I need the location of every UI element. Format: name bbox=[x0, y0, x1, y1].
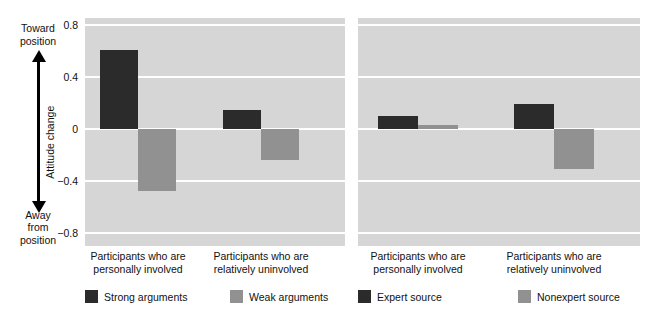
x-axis-group-labels-left: Participants who are personally involved… bbox=[85, 250, 345, 278]
legend-left: Strong argumentsWeak arguments bbox=[85, 290, 345, 306]
bar bbox=[138, 129, 176, 191]
legend-swatch bbox=[85, 290, 98, 303]
legend-item: Weak arguments bbox=[230, 290, 328, 303]
x-axis-group-labels-right: Participants who are personally involved… bbox=[358, 250, 640, 278]
figure-bar-chart-attitude-change: Toward position Attitude change Away fro… bbox=[0, 0, 649, 329]
legend-label: Strong arguments bbox=[104, 291, 187, 303]
legend-item: Expert source bbox=[358, 290, 442, 303]
gridline bbox=[358, 24, 640, 26]
caption-ghost bbox=[2, 318, 222, 328]
x-axis-group-label: Participants who are personally involved bbox=[353, 250, 483, 275]
legend-label: Expert source bbox=[377, 291, 442, 303]
gridline bbox=[85, 180, 345, 182]
y-tick-label: 0.4 bbox=[63, 71, 78, 83]
y-tick-label: 0.8 bbox=[63, 19, 78, 31]
legend-right: Expert sourceNonexpert source bbox=[358, 290, 640, 306]
legend-item: Strong arguments bbox=[85, 290, 187, 303]
legend-swatch bbox=[518, 290, 531, 303]
gridline bbox=[358, 76, 640, 78]
legend-swatch bbox=[358, 290, 371, 303]
y-axis-tick-labels: 0.80.40−0.4−0.8 bbox=[50, 0, 82, 260]
bar bbox=[223, 110, 261, 130]
plot-panel-right bbox=[358, 18, 640, 246]
bar bbox=[514, 104, 554, 129]
bar bbox=[554, 129, 594, 169]
y-tick-label: 0 bbox=[72, 123, 78, 135]
plot-panel-left bbox=[85, 18, 345, 246]
gridline bbox=[85, 24, 345, 26]
legend-item: Nonexpert source bbox=[518, 290, 620, 303]
bar bbox=[418, 125, 458, 129]
x-axis-group-label: Participants who are personally involved bbox=[73, 250, 203, 275]
gridline bbox=[85, 232, 345, 234]
y-tick-label: −0.4 bbox=[57, 175, 78, 187]
legend-swatch bbox=[230, 290, 243, 303]
x-axis-group-label: Participants who are relatively uninvolv… bbox=[196, 250, 326, 275]
legend-label: Nonexpert source bbox=[537, 291, 620, 303]
legend-label: Weak arguments bbox=[249, 291, 328, 303]
gridline bbox=[358, 232, 640, 234]
x-axis-group-label: Participants who are relatively uninvolv… bbox=[489, 250, 619, 275]
y-tick-label: −0.8 bbox=[57, 227, 78, 239]
gridline bbox=[358, 180, 640, 182]
bar bbox=[261, 129, 299, 160]
bar bbox=[100, 50, 138, 129]
bar bbox=[378, 116, 418, 129]
